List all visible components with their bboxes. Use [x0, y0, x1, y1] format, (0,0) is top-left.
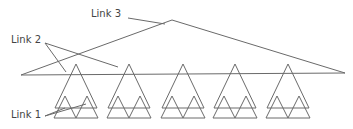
link3-triangle: [21, 20, 345, 75]
big-triangle-4: [213, 64, 257, 118]
big-triangle-3: [161, 64, 205, 118]
link2-leader-b: [45, 43, 118, 67]
big-triangle-2: [107, 64, 151, 118]
link3-baseline: [21, 73, 345, 75]
big-triangle-5: [266, 64, 310, 118]
link1-label: Link 1: [11, 109, 41, 120]
link3-label: Link 3: [91, 8, 121, 19]
link3-leader: [128, 18, 165, 24]
diagram-canvas: [0, 0, 353, 129]
link-hierarchy-diagram: Link 3 Link 2 Link 1: [0, 0, 353, 129]
link2-leader-a: [45, 43, 66, 72]
link2-label: Link 2: [11, 34, 41, 45]
